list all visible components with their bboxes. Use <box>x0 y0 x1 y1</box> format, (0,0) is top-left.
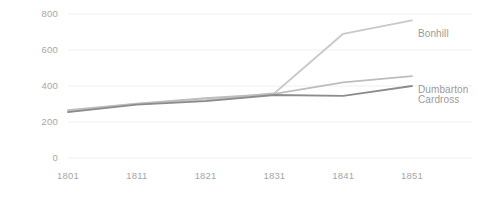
y-axis-tick-400: 400 <box>18 80 58 91</box>
x-axis-tick-1831: 1831 <box>251 170 297 181</box>
y-axis-tick-800: 800 <box>18 8 58 19</box>
series-lines <box>68 20 412 112</box>
series-label-bonhill: Bonhill <box>418 28 449 39</box>
series-label-cardross: Cardross <box>418 94 459 105</box>
y-axis-tick-0: 0 <box>18 152 58 163</box>
series-line-cardross <box>68 86 412 112</box>
x-axis-tick-1841: 1841 <box>320 170 366 181</box>
x-axis-tick-1811: 1811 <box>114 170 160 181</box>
x-axis-tick-1801: 1801 <box>45 170 91 181</box>
y-axis-tick-600: 600 <box>18 44 58 55</box>
x-axis-tick-1821: 1821 <box>183 170 229 181</box>
line-chart: 0200400600800 180118111821183118411851 B… <box>0 0 480 204</box>
x-axis-tick-1851: 1851 <box>389 170 435 181</box>
y-axis-tick-200: 200 <box>18 116 58 127</box>
